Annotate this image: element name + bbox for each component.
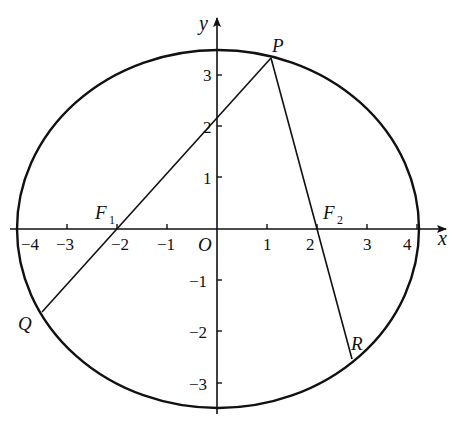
svg-text:1: 1 [109,213,115,227]
y-tick-label: 1 [203,169,212,188]
focus-F2-label: F 2 [322,202,343,227]
x-tick-label: −1 [157,235,175,254]
x-tick-label: −4 [21,235,40,254]
x-tick-label: 3 [363,235,372,254]
x-tick-label: −2 [111,235,129,254]
y-axis-label: y [197,12,208,35]
point-P-label: P [271,35,284,56]
svg-text:2: 2 [337,213,343,227]
x-tick-label: 1 [263,235,272,254]
x-axis-label: x [437,227,447,249]
svg-text:F: F [322,202,335,223]
y-tick-label: 3 [203,66,212,85]
y-tick-label: −2 [189,323,207,342]
svg-text:F: F [94,202,107,223]
y-tick-label: −3 [189,375,207,394]
chord-PR [271,58,352,359]
focus-F1-label: F 1 [94,202,115,227]
point-R-label: R [350,333,363,354]
origin-label: O [198,234,212,255]
ellipse-diagram: −4 −3 −2 −1 1 2 3 4 O 3 2 1 −1 −2 −3 x y… [0,0,459,423]
x-tick-label: 2 [306,235,315,254]
x-tick-label: −3 [56,235,74,254]
x-tick-label: 4 [403,235,412,254]
point-Q-label: Q [18,313,32,334]
chord-PQ [42,58,271,312]
y-tick-label: −1 [189,272,207,291]
y-tick-label: 2 [203,118,212,137]
